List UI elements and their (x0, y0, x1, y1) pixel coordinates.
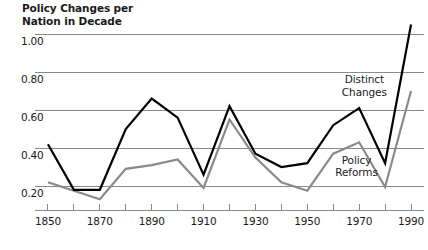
x-tick-label-1930: 1930 (242, 215, 268, 227)
x-tick-label-1850: 1850 (35, 215, 61, 227)
chart-figure: Policy Changes per Nation in Decade 0.20… (0, 0, 428, 250)
y-tick-label-0.40: 0.40 (21, 149, 44, 161)
y-tick-label-0.80: 0.80 (21, 73, 44, 85)
x-tick-label-1890: 1890 (139, 215, 165, 227)
series-label-policy-reforms: Policy Reforms (335, 154, 378, 179)
x-tick-label-1950: 1950 (294, 215, 320, 227)
series-label-distinct-changes: Distinct Changes (342, 73, 387, 98)
y-tick-label-0.60: 0.60 (21, 111, 44, 123)
y-tick-label-0.20: 0.20 (21, 187, 44, 199)
x-tick-label-1870: 1870 (87, 215, 113, 227)
line-chart-plot (0, 0, 428, 250)
axis-group (35, 204, 424, 210)
x-tick-label-1910: 1910 (191, 215, 217, 227)
y-tick-label-1.00: 1.00 (21, 35, 44, 47)
x-tick-label-1970: 1970 (346, 215, 372, 227)
x-tick-label-1990: 1990 (398, 215, 424, 227)
